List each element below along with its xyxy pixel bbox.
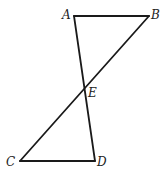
label-b: B xyxy=(150,8,160,22)
label-d: D xyxy=(96,155,107,169)
label-c: C xyxy=(6,155,15,169)
label-e: E xyxy=(87,86,97,100)
segment-bc xyxy=(20,16,149,161)
geometry-diagram: A B E C D xyxy=(0,0,163,177)
label-a: A xyxy=(61,8,71,22)
